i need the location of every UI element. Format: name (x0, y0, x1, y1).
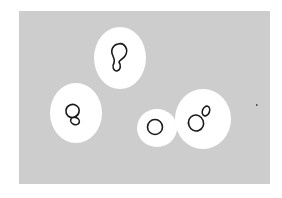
cell-right (175, 89, 231, 149)
speck (256, 104, 258, 106)
cell-small (137, 109, 177, 147)
capsule-left (50, 83, 102, 143)
capsule-small (137, 109, 177, 147)
cell-top (94, 27, 146, 89)
capsule-top (94, 27, 146, 89)
yeast-cells-diagram (0, 0, 282, 198)
cell-left (50, 83, 102, 143)
